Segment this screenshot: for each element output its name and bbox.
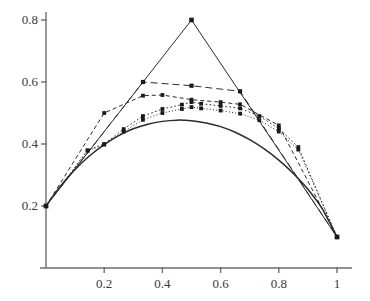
x-tick-label: 0.8 — [259, 277, 299, 290]
data-point-marker — [296, 148, 300, 152]
data-point-marker — [199, 102, 203, 106]
data-point-marker — [277, 130, 281, 134]
data-point-marker — [141, 80, 145, 84]
convergence-line-chart — [0, 0, 370, 301]
data-point-marker — [219, 109, 223, 113]
x-tick-label: 1 — [317, 277, 357, 290]
series-path-iteration-4 — [46, 102, 337, 237]
data-point-marker — [180, 103, 184, 107]
series-path-iteration-3 — [46, 95, 337, 237]
data-point-marker — [102, 111, 106, 115]
data-point-marker — [219, 104, 223, 108]
data-point-marker — [190, 105, 194, 109]
x-tick-label: 0.6 — [201, 277, 241, 290]
data-point-marker — [44, 204, 48, 208]
data-point-marker — [238, 102, 242, 106]
data-point-marker — [141, 94, 145, 98]
data-point-marker — [219, 100, 223, 104]
data-point-marker — [189, 84, 193, 88]
y-tick-label: 0.2 — [4, 199, 38, 212]
data-series-layer — [46, 20, 337, 237]
data-point-marker — [86, 149, 90, 153]
data-point-marker — [102, 143, 106, 147]
data-point-marker — [161, 107, 165, 111]
data-point-marker — [122, 130, 126, 134]
data-point-marker — [141, 118, 145, 122]
series-path-limit-curve — [46, 120, 337, 237]
data-point-marker — [335, 235, 339, 239]
data-point-marker — [161, 93, 165, 97]
x-tick-label: 0.4 — [142, 277, 182, 290]
data-point-marker — [199, 106, 203, 110]
data-point-marker — [161, 111, 165, 115]
data-point-marker — [238, 112, 242, 116]
data-point-marker — [189, 18, 194, 23]
x-tick-label: 0.2 — [84, 277, 124, 290]
data-point-marker — [190, 100, 194, 104]
data-point-marker — [238, 89, 242, 93]
data-point-marker — [257, 114, 261, 118]
data-marker-layer — [44, 18, 340, 240]
y-tick-label: 0.4 — [4, 137, 38, 150]
y-tick-label: 0.6 — [4, 75, 38, 88]
series-path-iteration-1 — [46, 20, 337, 237]
data-point-marker — [180, 107, 184, 111]
data-point-marker — [257, 118, 261, 122]
data-point-marker — [238, 106, 242, 110]
data-point-marker — [141, 114, 145, 118]
y-tick-label: 0.8 — [4, 13, 38, 26]
chart-figure: 0.20.40.60.8 0.20.40.60.81 — [0, 0, 370, 301]
